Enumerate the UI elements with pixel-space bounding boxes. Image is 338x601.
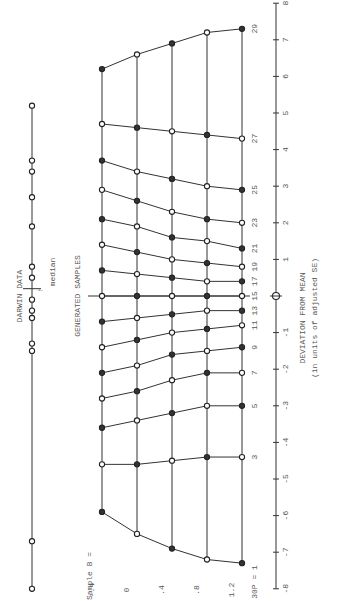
p-value-label: 19 [250, 262, 259, 272]
p-value-label: 7 [250, 370, 259, 375]
axis-tick-label: 8 [281, 1, 290, 6]
sample-point [169, 257, 174, 262]
darwin-data-title: DARWIN DATA [15, 269, 24, 322]
sample-point [169, 275, 174, 280]
axis-tick-label: -2 [281, 364, 290, 374]
sample-point [134, 363, 139, 368]
darwin-data-point [29, 539, 34, 544]
axis-tick-label: 7 [281, 37, 290, 42]
p-value-label: 27 [250, 134, 259, 144]
sample-point [239, 345, 244, 350]
axis-tick-label: -7 [281, 547, 290, 557]
sample-point [169, 176, 174, 181]
p-value-label: 11 [250, 320, 259, 330]
deviation-axis: -8-7-6-5-4-3-2-112345678 [270, 1, 290, 594]
axis-tick-label: 3 [281, 184, 290, 189]
sample-point [99, 242, 104, 247]
sample-point [204, 239, 209, 244]
sample-point [204, 557, 209, 562]
sample-point [99, 187, 104, 192]
sample-point [239, 136, 244, 141]
sample-point [239, 561, 244, 566]
sample-point [239, 454, 244, 459]
sample-b-title: Sample B = [85, 552, 94, 600]
darwin-data-point [29, 169, 34, 174]
axis-tick-label: 6 [281, 74, 290, 79]
p-value-label: 5 [250, 403, 259, 408]
sample-b-value: .4 [157, 585, 166, 595]
sample-point [134, 125, 139, 130]
sample-point [134, 531, 139, 536]
sample-point [239, 370, 244, 375]
darwin-data-point [29, 341, 34, 346]
axis-tick-label: -4 [281, 437, 290, 447]
darwin-data-point [29, 275, 34, 280]
sample-point [99, 217, 104, 222]
sample-point [134, 293, 139, 298]
sample-point [204, 217, 209, 222]
p-value-label: 17 [250, 276, 259, 286]
sample-point [134, 418, 139, 423]
sample-point [239, 308, 244, 313]
sample-point [239, 293, 244, 298]
p-value-label: 13 [250, 306, 259, 316]
axis-tick-label: -8 [281, 584, 290, 594]
axis-tick-label: -6 [281, 511, 290, 521]
sample-point [169, 352, 174, 357]
darwin-data-point [29, 308, 34, 313]
sample-point [134, 271, 139, 276]
sample-point [204, 184, 209, 189]
x-axis-label-line2: (in units of adjusted SE) [310, 258, 319, 378]
sample-point [169, 41, 174, 46]
axis-tick-label: 1 [281, 257, 290, 262]
sample-point [204, 293, 209, 298]
sample-point [169, 312, 174, 317]
axis-tick-label: -1 [281, 328, 290, 338]
p-value-label: 3 [250, 454, 259, 459]
darwin-data-point [29, 264, 34, 269]
sample-point [204, 132, 209, 137]
sample-point [134, 198, 139, 203]
sample-point [169, 293, 174, 298]
sample-point [169, 458, 174, 463]
sample-point [204, 308, 209, 313]
darwin-data-point [29, 103, 34, 108]
sample-point [169, 378, 174, 383]
sample-b-value: .8 [192, 585, 201, 595]
median-label: median [48, 257, 57, 286]
sample-point [204, 326, 209, 331]
chart-labels: DARWIN DATA ↑ median GENERATED SAMPLES D… [15, 255, 319, 600]
sample-point [134, 224, 139, 229]
sample-point [99, 319, 104, 324]
darwin-data-point [29, 315, 34, 320]
sample-point [134, 337, 139, 342]
sample-point [169, 411, 174, 416]
sample-point [99, 121, 104, 126]
p-value-label: 15 [250, 291, 259, 301]
p-value-label: 23 [250, 218, 259, 228]
sample-point [99, 268, 104, 273]
sample-point [99, 370, 104, 375]
p-value-label: 21 [250, 243, 259, 253]
median-arrow: ↑ [36, 288, 45, 293]
sample-point [204, 348, 209, 353]
sample-point [204, 279, 209, 284]
generated-samples-grid: -.40.4.81.230P = 13579111315171921232527… [87, 24, 259, 599]
sample-point [99, 425, 104, 430]
darwin-data-strip [23, 103, 41, 591]
p-value-label: 29 [250, 24, 259, 34]
sample-point [239, 187, 244, 192]
sample-point [239, 264, 244, 269]
sample-point [134, 52, 139, 57]
p-value-label: 30P = 1 [250, 565, 259, 599]
sample-point [239, 26, 244, 31]
axis-tick-label: -3 [281, 401, 290, 411]
sample-point [239, 323, 244, 328]
axis-tick-label: -5 [281, 474, 290, 484]
sample-point [99, 158, 104, 163]
darwin-data-point [29, 195, 34, 200]
p-value-label: 9 [250, 345, 259, 350]
sample-point [169, 546, 174, 551]
p-value-label: 25 [250, 185, 259, 195]
sample-point [204, 370, 209, 375]
